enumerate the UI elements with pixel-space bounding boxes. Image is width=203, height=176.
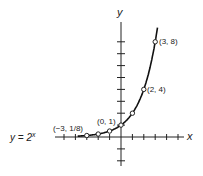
- exponential-graph: [0, 0, 203, 176]
- annotation-3-8: (3, 8): [159, 37, 178, 46]
- equation-label: y = 2x: [10, 131, 35, 143]
- data-point: [142, 87, 146, 91]
- data-point: [85, 133, 89, 137]
- data-point: [119, 123, 123, 127]
- x-axis-label: x: [187, 130, 193, 142]
- equation-exponent: x: [32, 131, 36, 138]
- y-axis-label: y: [117, 6, 123, 18]
- data-point: [107, 129, 111, 133]
- data-point: [96, 132, 100, 136]
- annotation-neg3-eighth: (−3, 1/8): [53, 124, 83, 133]
- data-point: [153, 40, 157, 44]
- data-point: [130, 111, 134, 115]
- equation-base: y = 2: [10, 132, 32, 143]
- annotation-2-4: (2, 4): [147, 85, 166, 94]
- annotation-0-1: (0, 1): [97, 117, 116, 126]
- curve-y-equals-2-to-x: [78, 28, 158, 137]
